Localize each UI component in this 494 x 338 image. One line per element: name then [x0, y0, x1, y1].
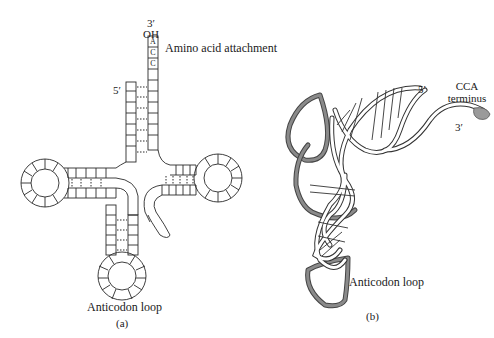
- anticodon-loop-label-b: Anticodon loop: [349, 276, 424, 288]
- cca-label-line2: terminus: [437, 92, 494, 104]
- five-prime-label-b: 5′: [418, 83, 426, 95]
- cca-label-line1: CCA: [447, 80, 487, 92]
- cca-terminus-blob: [474, 108, 490, 120]
- caption-b: (b): [366, 310, 379, 322]
- three-prime-label-b: 3′: [455, 121, 463, 133]
